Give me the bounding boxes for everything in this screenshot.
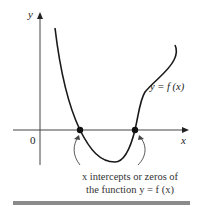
- pointer-arrowhead-1-icon: [74, 135, 80, 140]
- zero-point-1: [77, 127, 83, 133]
- divider-bar: [13, 201, 190, 205]
- x-axis-label: x: [181, 134, 186, 146]
- pointer-arrow-2: [138, 137, 145, 165]
- curve-label: y = f (x): [150, 81, 184, 92]
- y-axis-arrow-icon: [37, 12, 43, 19]
- function-curve: [55, 28, 176, 162]
- caption: x intercepts or zeros of the function y …: [60, 170, 200, 196]
- x-axis-arrow-icon: [182, 127, 189, 133]
- caption-line-1: x intercepts or zeros of: [60, 170, 200, 183]
- pointer-arrow-1: [74, 137, 80, 165]
- function-zeros-diagram: y 0 x y = f (x) x intercepts or zeros of…: [0, 0, 202, 207]
- origin-label: 0: [30, 134, 36, 146]
- y-axis-label: y: [28, 8, 33, 20]
- caption-line-2: the function y = f (x): [60, 183, 200, 196]
- zero-point-2: [132, 127, 138, 133]
- pointer-arrowhead-2-icon: [138, 135, 144, 140]
